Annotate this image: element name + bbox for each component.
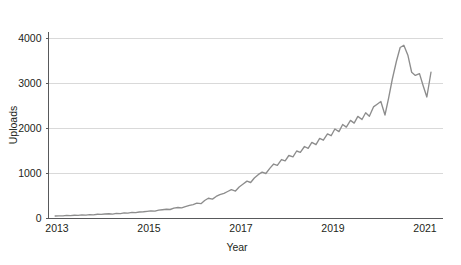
y-tick-label: 1000 [18,167,42,179]
y-tick-label: 0 [36,212,42,224]
x-tick-label: 2019 [321,222,345,234]
x-tick-label: 2013 [45,222,69,234]
x-tick-label: 2021 [413,222,437,234]
chart-canvas: 01000200030004000 20132015201720192021 Y… [0,0,461,265]
y-tick-label: 3000 [18,77,42,89]
y-tick-label: 2000 [18,122,42,134]
uploads-line-chart: 01000200030004000 20132015201720192021 Y… [0,0,461,265]
y-axis-title: Uploads [7,106,19,145]
x-axis-title: Year [226,241,248,253]
y-tick-label: 4000 [18,32,42,44]
x-tick-label: 2015 [137,222,161,234]
x-tick-label: 2017 [229,222,253,234]
